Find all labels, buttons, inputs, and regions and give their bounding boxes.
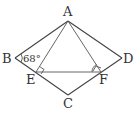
label-d: D: [123, 51, 133, 66]
right-angle-mark-e: [40, 67, 45, 75]
segment-ae: [36, 21, 68, 72]
label-b: B: [2, 51, 12, 66]
label-f: F: [99, 72, 108, 87]
label-e: E: [26, 72, 36, 87]
label-a: A: [62, 4, 73, 19]
side-ad: [68, 21, 122, 58]
label-c: C: [63, 96, 73, 111]
rhombus-diagram: A B C D E F 68°: [0, 0, 139, 116]
angle-b-value: 68°: [23, 53, 41, 64]
